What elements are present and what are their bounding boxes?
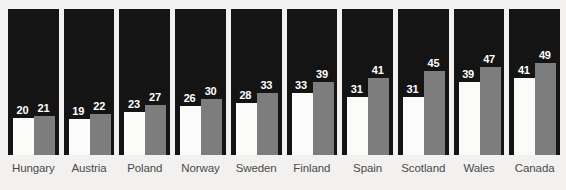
category-label-wales: Wales bbox=[454, 162, 505, 174]
bar-first bbox=[180, 106, 201, 155]
category-label-hungary: Hungary bbox=[8, 162, 59, 174]
category-label-poland: Poland bbox=[119, 162, 170, 174]
bar-value-label: 26 bbox=[179, 93, 200, 104]
bar-value-label: 41 bbox=[367, 65, 388, 76]
chart-panel: 2630 bbox=[175, 9, 226, 155]
bar-value-label: 49 bbox=[534, 50, 555, 61]
bar-second bbox=[145, 105, 166, 155]
bar-first bbox=[69, 119, 90, 155]
bar-chart: 2021192223272630283333393141314539474149… bbox=[0, 0, 566, 190]
bar-second bbox=[90, 114, 111, 155]
bar-value-label: 39 bbox=[312, 69, 333, 80]
panel-plot-area: 3339 bbox=[287, 9, 338, 155]
bar-value-label: 31 bbox=[402, 84, 423, 95]
bar-value-label: 27 bbox=[144, 92, 165, 103]
bar-value-label: 30 bbox=[200, 86, 221, 97]
bar-first bbox=[347, 97, 368, 155]
bar-value-label: 45 bbox=[423, 58, 444, 69]
category-label-row: HungaryAustriaPolandNorwaySwedenFinlandS… bbox=[8, 162, 560, 174]
bar-value-label: 20 bbox=[12, 105, 33, 116]
bar-first bbox=[292, 93, 313, 155]
bar-second bbox=[201, 99, 222, 155]
bar-first bbox=[124, 112, 145, 155]
panel-plot-area: 2833 bbox=[231, 9, 282, 155]
category-label-sweden: Sweden bbox=[231, 162, 282, 174]
bar-value-label: 39 bbox=[458, 69, 479, 80]
bar-first bbox=[236, 103, 257, 155]
category-label-norway: Norway bbox=[175, 162, 226, 174]
category-label-spain: Spain bbox=[342, 162, 393, 174]
panel-plot-area: 2021 bbox=[8, 9, 59, 155]
bar-value-label: 33 bbox=[256, 80, 277, 91]
bar-first bbox=[459, 82, 480, 155]
chart-panel: 3339 bbox=[287, 9, 338, 155]
bar-second bbox=[480, 67, 501, 155]
bar-value-label: 23 bbox=[123, 99, 144, 110]
chart-panel: 1922 bbox=[64, 9, 115, 155]
chart-panel: 4149 bbox=[509, 9, 560, 155]
bar-value-label: 19 bbox=[68, 106, 89, 117]
panel-plot-area: 3145 bbox=[398, 9, 449, 155]
bar-second bbox=[368, 78, 389, 155]
category-label-finland: Finland bbox=[287, 162, 338, 174]
panel-plot-area: 4149 bbox=[509, 9, 560, 155]
category-label-scotland: Scotland bbox=[398, 162, 449, 174]
bar-value-label: 47 bbox=[479, 54, 500, 65]
panel-plot-area: 3141 bbox=[342, 9, 393, 155]
panel-plot-area: 3947 bbox=[454, 9, 505, 155]
panel-plot-area: 2630 bbox=[175, 9, 226, 155]
panel-plot-area: 1922 bbox=[64, 9, 115, 155]
bar-value-label: 33 bbox=[291, 80, 312, 91]
bar-value-label: 21 bbox=[33, 103, 54, 114]
bar-second bbox=[257, 93, 278, 155]
bar-first bbox=[514, 78, 535, 155]
panel-plot-area: 2327 bbox=[119, 9, 170, 155]
bar-value-label: 31 bbox=[346, 84, 367, 95]
category-label-austria: Austria bbox=[64, 162, 115, 174]
bar-first bbox=[13, 118, 34, 155]
bar-second bbox=[313, 82, 334, 155]
bar-value-label: 22 bbox=[89, 101, 110, 112]
bar-second bbox=[535, 63, 556, 155]
chart-panel: 3141 bbox=[342, 9, 393, 155]
panel-group: 2021192223272630283333393141314539474149 bbox=[8, 9, 560, 155]
chart-panel: 3947 bbox=[454, 9, 505, 155]
bar-value-label: 41 bbox=[513, 65, 534, 76]
bar-second bbox=[424, 71, 445, 155]
bar-first bbox=[403, 97, 424, 155]
chart-panel: 2327 bbox=[119, 9, 170, 155]
chart-panel: 2021 bbox=[8, 9, 59, 155]
bar-value-label: 28 bbox=[235, 90, 256, 101]
chart-panel: 2833 bbox=[231, 9, 282, 155]
category-label-canada: Canada bbox=[509, 162, 560, 174]
chart-panel: 3145 bbox=[398, 9, 449, 155]
bar-second bbox=[34, 116, 55, 155]
